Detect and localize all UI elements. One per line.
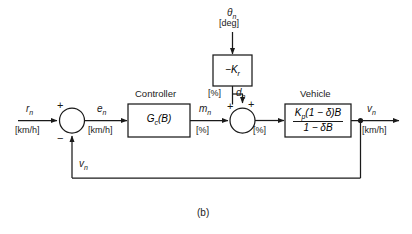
label-feedback-signal: vn	[79, 159, 88, 171]
summing-junction-error	[60, 108, 85, 133]
sign-plus-control: +	[227, 101, 233, 112]
sign-minus-feedback: −	[57, 133, 63, 144]
label-reference-signal: rn	[26, 104, 33, 116]
label-vehicle-title: Vehicle	[300, 89, 331, 99]
label-controller-transfer-function: Gc(B)	[128, 114, 190, 126]
label-disturbance-unit: [%]	[208, 89, 221, 98]
summing-junction-disturbance	[230, 108, 255, 133]
label-reference-unit: [km/h]	[15, 126, 40, 135]
sign-plus-disturbance: +	[248, 99, 254, 110]
label-output-unit: [km/h]	[362, 126, 387, 135]
label-error-signal: en	[97, 104, 106, 116]
label-grade-input-unit: [deg]	[219, 19, 239, 28]
figure-caption: (b)	[197, 208, 209, 218]
label-grade-gain: −Kr	[213, 65, 252, 77]
vehicle-denominator: 1 − δB	[293, 121, 343, 134]
label-controller-title: Controller	[135, 89, 176, 99]
label-control-unit: [%]	[196, 126, 209, 135]
label-vehicle-transfer-function: Kp(1 − δ)B 1 − δB	[285, 108, 351, 134]
figure-canvas: rn [km/h] + − en [km/h] Controller Gc(B)…	[0, 0, 412, 234]
label-error-unit: [km/h]	[88, 126, 113, 135]
vehicle-numerator: Kp(1 − δ)B	[293, 108, 343, 121]
label-control-signal: mn	[199, 104, 211, 116]
sign-plus-reference: +	[57, 100, 63, 111]
label-disturbance-signal: dn	[236, 88, 245, 100]
label-output-signal: vn	[367, 104, 376, 116]
label-plant-input-unit: [%]	[253, 126, 266, 135]
